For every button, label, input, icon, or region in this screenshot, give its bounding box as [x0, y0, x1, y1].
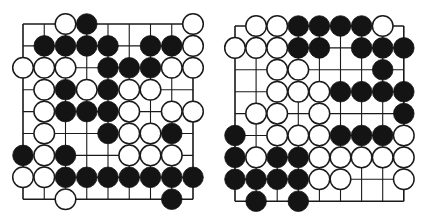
black-stone — [288, 16, 309, 37]
white-stone — [288, 81, 309, 102]
black-stone — [372, 125, 393, 146]
white-stone — [267, 60, 288, 81]
white-stone — [330, 169, 351, 190]
black-stone — [372, 60, 393, 81]
white-stone — [267, 16, 288, 37]
black-stone — [225, 169, 246, 190]
black-stone — [330, 81, 351, 102]
go-board-right — [0, 0, 430, 222]
black-stone — [330, 125, 351, 146]
black-stone — [246, 169, 267, 190]
white-stone — [394, 147, 415, 168]
black-stone — [288, 169, 309, 190]
white-stone — [309, 81, 330, 102]
black-stone — [372, 38, 393, 59]
black-stone — [372, 81, 393, 102]
white-stone — [330, 147, 351, 168]
white-stone — [288, 125, 309, 146]
black-stone — [246, 191, 267, 212]
black-stone — [225, 147, 246, 168]
white-stone — [394, 125, 415, 146]
white-stone — [267, 38, 288, 59]
white-stone — [372, 147, 393, 168]
black-stone — [225, 125, 246, 146]
black-stone — [394, 103, 415, 124]
black-stone — [309, 38, 330, 59]
black-stone — [288, 38, 309, 59]
white-stone — [246, 147, 267, 168]
white-stone — [309, 103, 330, 124]
black-stone — [351, 38, 372, 59]
white-stone — [267, 81, 288, 102]
black-stone — [394, 38, 415, 59]
white-stone — [309, 147, 330, 168]
white-stone — [267, 103, 288, 124]
white-stone — [267, 125, 288, 146]
black-stone — [288, 191, 309, 212]
white-stone — [246, 38, 267, 59]
white-stone — [309, 125, 330, 146]
white-stone — [288, 60, 309, 81]
black-stone — [288, 147, 309, 168]
white-stone — [246, 16, 267, 37]
black-stone — [351, 81, 372, 102]
black-stone — [351, 125, 372, 146]
black-stone — [394, 81, 415, 102]
white-stone — [394, 169, 415, 190]
black-stone — [330, 16, 351, 37]
white-stone — [351, 147, 372, 168]
black-stone — [309, 16, 330, 37]
white-stone — [372, 16, 393, 37]
white-stone — [246, 103, 267, 124]
black-stone — [351, 16, 372, 37]
white-stone — [309, 169, 330, 190]
black-stone — [267, 147, 288, 168]
black-stone — [267, 169, 288, 190]
white-stone — [225, 38, 246, 59]
go-board-right-svg — [0, 0, 430, 222]
